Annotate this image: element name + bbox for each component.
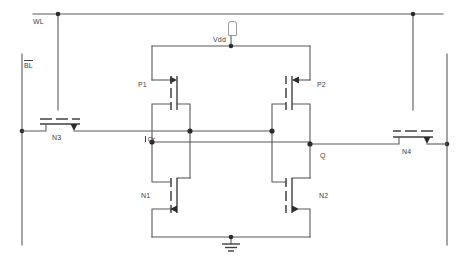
n3-source-arrow — [71, 124, 78, 131]
junction-dot-qbar-right-gate — [269, 128, 274, 133]
junction-dot-wl-right — [411, 12, 416, 17]
label-n1: N1 — [141, 192, 150, 199]
junction-dot-vdd — [229, 44, 234, 49]
junction-dot-q — [307, 141, 312, 146]
junction-dot-wl-left — [56, 12, 61, 17]
p2-source-arrow — [292, 77, 299, 84]
transistor-p2 — [272, 76, 310, 144]
junction-dot-gnd — [229, 235, 234, 240]
label-node-q-bar: Q — [145, 136, 154, 142]
n1-source-lead — [152, 209, 170, 237]
label-p2: P2 — [317, 81, 326, 88]
label-node-q: Q — [320, 152, 326, 159]
label-word-line: WL — [33, 18, 44, 25]
label-p1: P1 — [138, 81, 147, 88]
transistor-n3 — [22, 119, 190, 131]
n2-source-lead — [299, 209, 310, 237]
bit-line-bar-net — [20, 54, 25, 245]
transistor-p1 — [152, 76, 190, 142]
transistor-n2 — [272, 131, 310, 237]
transistor-n1 — [152, 131, 190, 237]
n3-drain-lead — [22, 124, 46, 131]
label-n2: N2 — [319, 192, 328, 199]
junction-dot-qbar — [187, 128, 192, 133]
circuit-schematic-svg — [0, 0, 463, 261]
schematic-canvas: WL BL Vdd P1 P2 N1 N2 N3 N4 Q Q — [0, 0, 463, 261]
word-line-net — [33, 12, 443, 110]
label-bit-line-bar: BL — [24, 60, 33, 69]
p1-gate-lead — [152, 104, 171, 142]
ground-net — [152, 235, 310, 251]
p1-drain-lead — [177, 104, 190, 131]
label-n4: N4 — [402, 148, 411, 155]
n2-source-arrow — [292, 206, 299, 213]
bit-line-net — [445, 54, 450, 245]
n1-gate-lead — [152, 142, 171, 182]
n2-gate-lead — [272, 131, 286, 182]
label-vdd: Vdd — [213, 36, 226, 43]
vdd-net — [152, 33, 310, 80]
n4-source-lead-to-q — [310, 137, 399, 144]
n4-drain-arrow — [424, 137, 431, 144]
ground-symbol — [222, 244, 240, 251]
vdd-terminal-flag — [228, 21, 237, 36]
label-n3: N3 — [52, 134, 61, 141]
p2-drain-lead — [292, 104, 310, 144]
transistor-n4 — [310, 131, 447, 144]
p2-gate-lead — [272, 104, 286, 131]
